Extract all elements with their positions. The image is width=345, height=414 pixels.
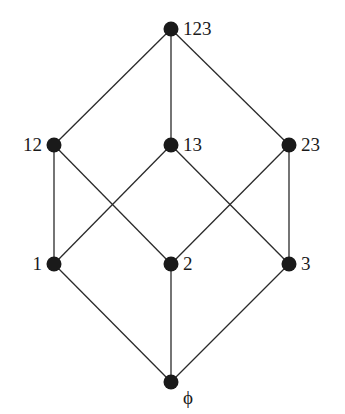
node-1 bbox=[47, 257, 62, 272]
node-3 bbox=[282, 257, 297, 272]
node-13 bbox=[164, 138, 179, 153]
node-12 bbox=[47, 138, 62, 153]
node-label-123: 123 bbox=[183, 18, 212, 39]
node-label-empty: ϕ bbox=[183, 387, 193, 408]
node-label-1: 1 bbox=[33, 253, 43, 274]
node-label-2: 2 bbox=[183, 253, 193, 274]
edge-123-23 bbox=[171, 29, 289, 145]
node-label-12: 12 bbox=[23, 134, 42, 155]
edge-1-empty bbox=[54, 264, 171, 382]
node-empty bbox=[164, 375, 179, 390]
node-label-13: 13 bbox=[183, 134, 202, 155]
node-23 bbox=[282, 138, 297, 153]
edge-123-12 bbox=[54, 29, 171, 145]
node-label-3: 3 bbox=[301, 253, 311, 274]
edge-3-empty bbox=[171, 264, 289, 382]
edges bbox=[54, 29, 289, 382]
node-2 bbox=[164, 257, 179, 272]
node-123 bbox=[164, 22, 179, 37]
hasse-diagram: 123121323123ϕ bbox=[0, 0, 345, 414]
node-label-23: 23 bbox=[301, 134, 320, 155]
